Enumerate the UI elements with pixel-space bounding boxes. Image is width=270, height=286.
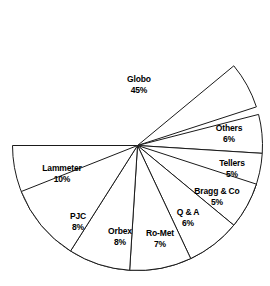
pie-chart: Globo45%Others6%Tellers5%Bragg & Co5%Q &… <box>0 0 270 286</box>
pie-chart-canvas <box>0 0 270 286</box>
